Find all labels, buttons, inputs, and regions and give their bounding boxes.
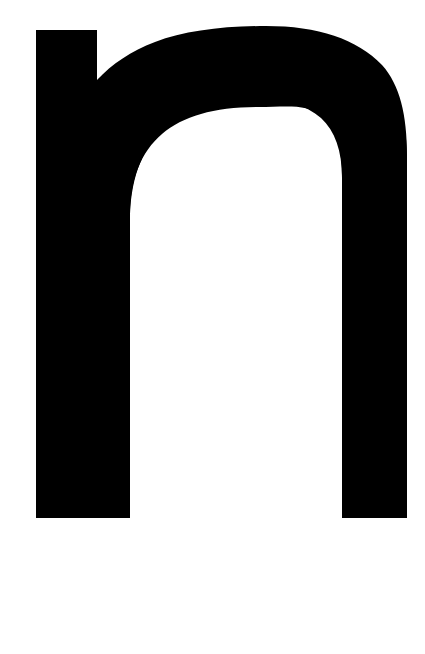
letter-n-glyph (0, 0, 425, 654)
image-canvas: n (0, 0, 425, 654)
